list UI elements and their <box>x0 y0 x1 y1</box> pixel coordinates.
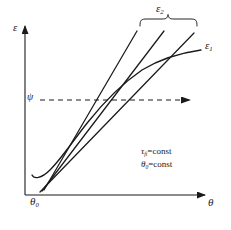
theta0-value: =const <box>148 159 172 169</box>
tangent-line-1 <box>44 31 137 190</box>
epsilon2-brace <box>140 15 197 27</box>
epsilon1-subscript: 1 <box>209 45 212 52</box>
epsilon2-subscript: 2 <box>160 8 163 15</box>
condition-line-1: τfi=const <box>141 145 172 158</box>
x-axis-label: θ <box>208 197 213 208</box>
origin-subscript: 0 <box>35 201 38 208</box>
condition-annotations: τfi=const θ0=const <box>141 145 172 171</box>
origin-label: θ0 <box>30 196 39 209</box>
y-axis-label: ε <box>13 22 17 33</box>
condition-line-2: θ0=const <box>141 158 172 171</box>
tau-value: =const <box>147 146 171 156</box>
figure-canvas: ε θ θ0 ε1 ε2 ψ τfi=const θ0=const <box>0 0 231 230</box>
psi-label: ψ <box>27 92 33 102</box>
epsilon2-label: ε2 <box>156 3 164 16</box>
epsilon1-label: ε1 <box>205 40 213 53</box>
